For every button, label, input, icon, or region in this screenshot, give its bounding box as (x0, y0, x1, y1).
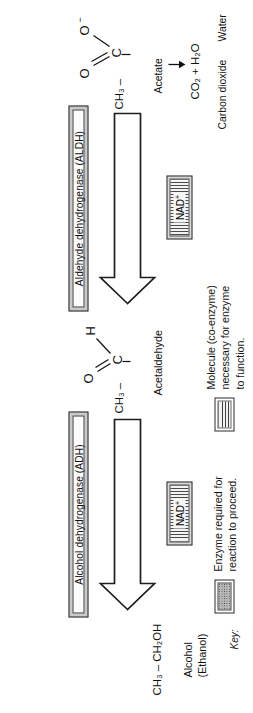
coenzyme-label-nad-1: NAD+ (173, 498, 185, 527)
key-swatch-enzyme (214, 579, 234, 613)
figure-canvas: CH₃ – CH₂OH Alcohol (Ethanol) Alcohol de… (0, 0, 253, 713)
acetaldehyde-structure: C O H (78, 317, 132, 383)
substrate-name-line2: (Ethanol) (194, 633, 208, 677)
svg-text:C: C (108, 48, 123, 57)
enzyme-label-aldh: Aldehyde dehydrogenase (ALDH) (73, 130, 84, 285)
reaction-arrow-1 (96, 419, 158, 609)
final-products-formula: CO₂ + H₂O (188, 43, 201, 99)
acetate-structure: C O O − (72, 7, 132, 79)
acetaldehyde-name: Acetaldehyde (150, 330, 164, 395)
key-swatch-enzyme-fill (217, 582, 231, 610)
coenzyme-charge-nad-2: + (173, 194, 180, 198)
key-title: Key: (228, 629, 239, 649)
coenzyme-box-nad-2: NAD+ (166, 175, 192, 239)
carbon-dioxide-label: Carbon dioxide (216, 59, 228, 129)
water-label: Water (216, 14, 228, 41)
reaction-arrow-2 (96, 113, 158, 303)
substrate-name-line1: Alcohol (180, 642, 194, 677)
substrate-formula: CH₃ – CH₂OH (150, 623, 163, 695)
key-text-enzyme: Enzyme required for reaction to proceed. (210, 476, 239, 571)
key-swatch-coenzyme (214, 397, 234, 431)
acetate-name: Acetate (152, 58, 164, 93)
svg-text:O: O (76, 68, 91, 78)
svg-text:C: C (109, 355, 124, 364)
key-text-coenzyme: Molecule (co-enzyme) necessary for enzym… (203, 285, 246, 389)
enzyme-bar-adh: Alcohol dehydrogenase (ADH) (68, 411, 88, 617)
svg-text:H: H (82, 326, 97, 335)
svg-text:O: O (76, 25, 91, 35)
enzyme-label-adh: Alcohol dehydrogenase (ADH) (73, 444, 84, 584)
enzyme-bar-aldh: Aldehyde dehydrogenase (ALDH) (68, 105, 88, 311)
coenzyme-charge-nad-1: + (173, 500, 180, 504)
acetate-to-products-arrow (168, 57, 186, 71)
acetaldehyde-formula-prefix: CH₃ – (112, 382, 125, 413)
svg-text:−: − (74, 17, 84, 22)
svg-text:O: O (80, 373, 95, 383)
coenzyme-label-nad-2: NAD+ (173, 192, 185, 221)
key-swatch-coenzyme-fill (217, 400, 231, 428)
rotated-diagram: CH₃ – CH₂OH Alcohol (Ethanol) Alcohol de… (0, 0, 253, 713)
acetate-formula-prefix: CH₃ – (112, 78, 125, 109)
coenzyme-box-nad-1: NAD+ (166, 481, 192, 545)
